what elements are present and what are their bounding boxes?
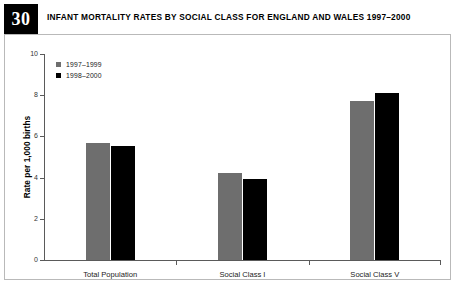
y-axis-tick-label: 2 — [24, 215, 38, 222]
bar — [86, 143, 110, 260]
chart-figure: 30 INFANT MORTALITY RATES BY SOCIAL CLAS… — [0, 0, 455, 284]
y-axis-line — [44, 54, 45, 260]
x-axis-category-label: Social Class V — [309, 270, 441, 279]
bar — [111, 146, 135, 260]
chart-header: 30 INFANT MORTALITY RATES BY SOCIAL CLAS… — [0, 4, 455, 34]
y-axis-tick — [40, 95, 44, 96]
y-axis-tick — [40, 178, 44, 179]
x-axis-tick — [176, 260, 177, 265]
bar — [375, 93, 399, 260]
y-axis-tick — [40, 54, 44, 55]
chart-plate: Rate per 1,000 births 1997–1999 1998–200… — [4, 34, 451, 280]
bar — [350, 101, 374, 260]
x-axis-category-label: Social Class I — [176, 270, 308, 279]
x-axis-tick — [440, 260, 441, 265]
bar — [243, 179, 267, 260]
x-axis-category-label: Total Population — [44, 270, 176, 279]
y-axis-tick-label: 6 — [24, 132, 38, 139]
x-axis-tick — [309, 260, 310, 265]
y-axis-tick — [40, 136, 44, 137]
y-axis-tick — [40, 219, 44, 220]
y-axis-tick-label: 4 — [24, 174, 38, 181]
y-axis-label: Rate per 1,000 births — [22, 92, 32, 222]
y-axis-tick-label: 8 — [24, 91, 38, 98]
x-axis-line — [44, 260, 441, 261]
figure-number-badge: 30 — [4, 4, 38, 34]
y-axis-tick-label: 10 — [24, 50, 38, 57]
chart-title: INFANT MORTALITY RATES BY SOCIAL CLASS F… — [47, 12, 411, 22]
bar — [218, 173, 242, 260]
y-axis-tick — [40, 260, 44, 261]
y-axis-tick-label: 0 — [24, 256, 38, 263]
plot-area: 0246810 Total PopulationSocial Class ISo… — [44, 54, 441, 260]
